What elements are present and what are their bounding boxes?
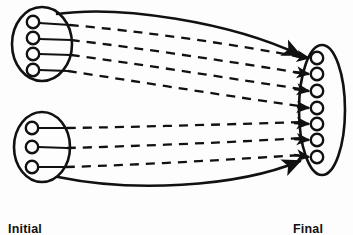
initial-node-i2 <box>27 32 39 44</box>
envelope-group <box>57 12 300 186</box>
final-node-f2 <box>311 68 323 80</box>
initial-node-i6 <box>26 141 38 153</box>
trajectory-i2-f2 <box>71 40 300 73</box>
initial-states-label: Initial states <box>8 192 45 235</box>
arrow-stub-f5 <box>294 123 309 124</box>
initial-node-i4 <box>27 64 39 76</box>
initial-node-i3 <box>27 48 39 60</box>
stub-i1 <box>39 23 70 25</box>
trajectory-group-lower <box>66 122 301 167</box>
initial-group-upper <box>12 7 72 81</box>
arrow-stub-f2 <box>294 72 309 74</box>
final-node-f6 <box>311 134 323 146</box>
final-states-label-line1: Final <box>268 222 348 235</box>
stub-i4 <box>39 70 68 71</box>
final-node-f3 <box>311 85 323 97</box>
trajectory-i5-f5 <box>67 122 301 128</box>
initial-lower-node-stubs <box>38 128 67 167</box>
stub-i6 <box>38 147 67 148</box>
state-transition-figure: Initial states Final state(s) <box>0 0 353 235</box>
initial-node-i7 <box>26 161 38 173</box>
initial-node-i1 <box>27 16 39 28</box>
final-states-label: Final state(s) <box>268 192 348 235</box>
final-node-f5 <box>311 118 323 130</box>
initial-states-label-line1: Initial <box>8 222 45 235</box>
trajectory-i4-f4 <box>68 71 300 106</box>
final-node-f4 <box>311 102 323 114</box>
stub-i2 <box>39 39 71 40</box>
arrow-stub-f3 <box>294 89 309 91</box>
trajectory-group-upper <box>68 25 301 106</box>
trajectory-i3-f3 <box>71 55 301 89</box>
initial-node-i5 <box>26 122 38 134</box>
trajectory-i6-f6 <box>67 138 301 148</box>
lower-envelope-curve <box>58 161 300 186</box>
upper-envelope-curve <box>57 12 300 55</box>
final-group <box>299 45 345 175</box>
final-node-f7 <box>311 151 323 163</box>
stub-i3 <box>39 54 71 55</box>
initial-group-lower <box>14 112 70 182</box>
trajectory-i7-f7 <box>66 155 301 167</box>
final-node-f1 <box>311 52 323 64</box>
